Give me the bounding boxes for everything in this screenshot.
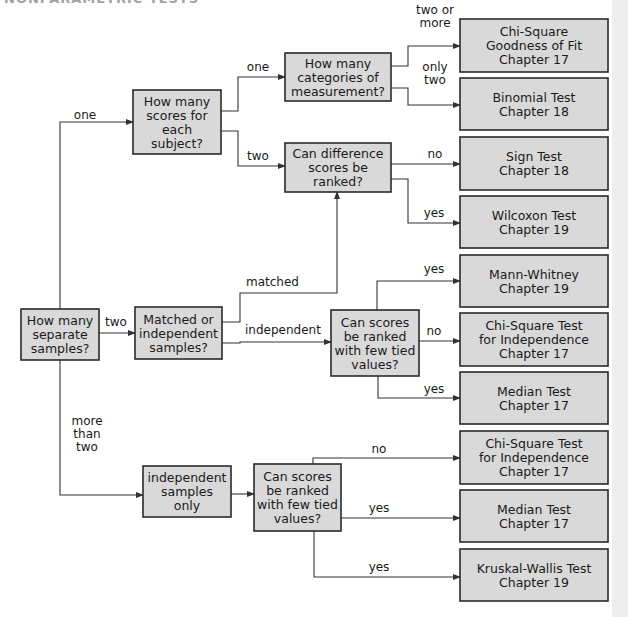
- box-text-line: Chapter 17: [499, 398, 569, 413]
- box-text-line: samples: [161, 484, 213, 499]
- box-text-line: Median Test: [497, 502, 571, 517]
- box-text-line: separate: [32, 327, 87, 342]
- box-text-line: Mann-Whitney: [489, 267, 580, 282]
- connector-matched_indep-to-ranked_ties_2: [222, 342, 331, 343]
- decision-box-diff-ranked: Can differencescores beranked?: [285, 143, 391, 192]
- edge-label: yes: [369, 501, 390, 515]
- edge-label: than: [73, 427, 100, 441]
- cropped-header: NONPARAMETRIC TESTS: [4, 0, 199, 6]
- box-text-line: Chapter 17: [499, 516, 569, 531]
- box-text-line: Chapter 18: [499, 104, 569, 119]
- edge-label: two or: [416, 3, 454, 17]
- connector-categories-to-r_binomial: [391, 88, 460, 105]
- edge-label: one: [247, 60, 269, 74]
- connector-ranked_ties_3-to-r_chisq_indep_3: [313, 458, 460, 464]
- edge-label: one: [74, 108, 96, 122]
- box-text-line: Can difference: [292, 146, 383, 161]
- edge-label: more: [419, 16, 450, 30]
- decision-box-ranked-ties-3: Can scoresbe rankedwith few tiedvalues?: [254, 464, 341, 531]
- box-text-line: scores be: [308, 160, 368, 175]
- box-text-line: with few tied: [257, 497, 338, 512]
- box-text-line: Chi-Square Test: [485, 436, 582, 451]
- box-text-line: Chapter 19: [499, 575, 569, 590]
- box-text-line: Goodness of Fit: [486, 38, 582, 53]
- result-box-r-chisq-indep-2: Chi-Square Testfor IndependenceChapter 1…: [460, 313, 608, 366]
- box-text-line: independent: [147, 470, 226, 485]
- box-text-line: for Independence: [479, 332, 589, 347]
- box-text-line: Can scores: [263, 469, 331, 484]
- edge-label: only: [422, 60, 447, 74]
- decision-box-indep-only: independentsamplesonly: [143, 466, 231, 517]
- box-text-line: How many: [305, 56, 372, 71]
- result-box-r-wilcoxon: Wilcoxon TestChapter 19: [460, 196, 608, 248]
- box-text-line: Chi-Square Test: [485, 318, 582, 333]
- edge-label: yes: [424, 382, 445, 396]
- edge-label: two: [424, 73, 446, 87]
- connector-root-to-scores_per_subject: [60, 122, 133, 309]
- box-text-line: for Independence: [479, 450, 589, 465]
- result-box-r-kruskal: Kruskal-Wallis TestChapter 19: [460, 549, 608, 601]
- edge-label: two: [105, 315, 127, 329]
- box-text-line: Chapter 17: [499, 464, 569, 479]
- edge-label: matched: [246, 275, 299, 289]
- edge-label: two: [247, 149, 269, 163]
- connector-ranked_ties_2-to-r_median_2: [378, 376, 460, 398]
- box-text-line: scores for: [146, 108, 208, 123]
- box-text-line: be ranked: [266, 483, 329, 498]
- connector-ranked_ties_2-to-r_mann_whitney: [377, 281, 460, 310]
- box-text-line: How many: [144, 94, 211, 109]
- box-text-line: Chapter 18: [499, 163, 569, 178]
- box-text-line: only: [174, 498, 201, 513]
- page-edge-strip: [612, 0, 628, 617]
- box-text-line: independent: [139, 326, 218, 341]
- decision-box-matched-indep: Matched orindependentsamples?: [135, 307, 222, 359]
- result-box-r-mann-whitney: Mann-WhitneyChapter 19: [460, 255, 608, 307]
- box-text-line: samples?: [149, 340, 208, 355]
- box-text-line: Median Test: [497, 384, 571, 399]
- box-text-line: Wilcoxon Test: [492, 208, 576, 223]
- result-box-r-binomial: Binomial TestChapter 18: [460, 78, 608, 130]
- decision-box-root: How manyseparatesamples?: [21, 309, 99, 360]
- result-box-r-median-3: Median TestChapter 17: [460, 490, 608, 542]
- edge-label: no: [372, 442, 387, 456]
- box-text-line: Chapter 17: [499, 52, 569, 67]
- box-text-line: be ranked: [344, 329, 407, 344]
- edge-label: no: [427, 324, 442, 338]
- box-text-line: Binomial Test: [493, 90, 576, 105]
- flowchart-canvas: onetwomorethantwoonetwotwo ormoreonlytwo…: [0, 0, 628, 617]
- connector-scores_per_subject-to-categories: [221, 77, 285, 111]
- decision-box-ranked-ties-2: Can scoresbe rankedwith few tiedvalues?: [331, 310, 419, 376]
- box-text-line: How many: [27, 313, 94, 328]
- box-text-line: Chi-Square: [500, 24, 569, 39]
- edge-label: more: [71, 414, 102, 428]
- box-text-line: values?: [351, 357, 398, 372]
- box-text-line: Can scores: [341, 315, 409, 330]
- box-text-line: categories of: [297, 70, 379, 85]
- edge-label: yes: [424, 262, 445, 276]
- box-text-line: samples?: [31, 341, 90, 356]
- box-text-line: Kruskal-Wallis Test: [477, 561, 592, 576]
- box-text-line: Matched or: [143, 312, 214, 327]
- box-text-line: Chapter 19: [499, 222, 569, 237]
- edge-label: no: [428, 147, 443, 161]
- result-box-r-median-2: Median TestChapter 17: [460, 372, 608, 424]
- box-text-line: each: [162, 122, 192, 137]
- edge-label: yes: [424, 206, 445, 220]
- edge-label: independent: [245, 323, 321, 337]
- box-text-line: Sign Test: [506, 149, 562, 164]
- box-text-line: subject?: [151, 136, 203, 151]
- box-text-line: measurement?: [291, 84, 385, 99]
- box-text-line: ranked?: [313, 174, 363, 189]
- box-text-line: Chapter 17: [499, 346, 569, 361]
- result-box-r-chisq-indep-3: Chi-Square Testfor IndependenceChapter 1…: [460, 431, 608, 484]
- flowchart: NONPARAMETRIC TESTS onetwomorethantwoone…: [0, 0, 628, 617]
- box-text-line: values?: [274, 511, 321, 526]
- edge-label: yes: [369, 560, 390, 574]
- decision-box-scores-per-subject: How manyscores foreachsubject?: [133, 90, 221, 154]
- edge-label: two: [76, 440, 98, 454]
- box-text-line: Chapter 19: [499, 281, 569, 296]
- decision-box-categories: How manycategories ofmeasurement?: [285, 53, 391, 101]
- result-box-r-sign: Sign TestChapter 18: [460, 137, 608, 190]
- box-text-line: with few tied: [335, 343, 416, 358]
- connector-matched_indep-to-diff_ranked: [222, 192, 337, 322]
